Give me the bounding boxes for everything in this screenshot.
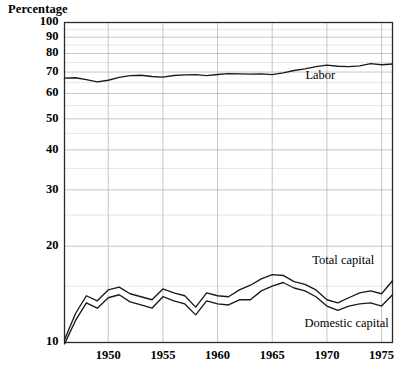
y-tick-label: 40 [46,142,59,156]
x-tick-label: 1960 [205,348,230,362]
y-tick-label: 50 [46,111,59,125]
y-tick-label: 70 [46,64,59,78]
series-annotation-domestic-capital: Domestic capital [304,316,389,330]
y-tick-label: 90 [46,29,59,43]
series-line-domestic-capital [65,282,393,343]
y-tick-label: 20 [46,238,59,252]
x-axis-tick-labels: 195019551960196519701975 [96,348,394,362]
chart-plot: 100908070605040302010 195019551960196519… [0,0,410,371]
x-tick-label: 1955 [150,348,175,362]
series-annotation-labor: Labor [305,68,336,82]
series-line-total-capital [65,275,393,340]
y-tick-label: 80 [46,45,59,59]
minor-gridlines [65,30,393,287]
y-tick-label: 30 [46,182,59,196]
x-tick-label: 1970 [314,348,339,362]
series-annotation-total-capital: Total capital [312,253,374,267]
chart-container: Percentage 100908070605040302010 1950195… [0,0,410,371]
y-axis-tick-labels: 100908070605040302010 [40,14,59,348]
vertical-gridlines [108,23,381,343]
plot-frame [65,23,393,343]
y-tick-label: 10 [46,334,59,348]
y-tick-label: 60 [46,85,59,99]
series-line-labor [65,64,393,82]
x-tick-label: 1965 [260,348,285,362]
y-tick-label: 100 [40,14,59,28]
x-tick-label: 1975 [369,348,394,362]
x-tick-label: 1950 [96,348,121,362]
